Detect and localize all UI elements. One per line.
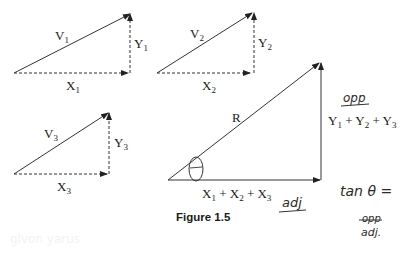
- vector-addition-diagram: V1 X1 Y1 V2 X2 Y2 V3 X3 Y3 R X1 + X2 + X…: [0, 0, 408, 259]
- adj-annotation: adj: [282, 195, 302, 210]
- opp-annotation: opp: [343, 91, 366, 105]
- fraction-numerator: opp: [362, 213, 381, 224]
- x2-label: X2: [202, 78, 216, 95]
- vector-triangle-1: V1 X1 Y1: [14, 14, 148, 95]
- v1-arrow: [14, 14, 130, 73]
- v3-label: V3: [44, 126, 58, 143]
- y-sum-label: Y1 + Y2 + Y3: [328, 113, 397, 130]
- x1-label: X1: [66, 78, 80, 95]
- v2-arrow: [157, 13, 252, 73]
- faint-bleed-text: glvon yarus: [10, 232, 80, 246]
- figure-caption: Figure 1.5: [176, 211, 231, 223]
- theta-angle-mark: [189, 157, 203, 181]
- vector-triangle-2: V2 X2 Y2: [157, 13, 272, 95]
- resultant-label: R: [232, 110, 241, 125]
- y3-label: Y3: [114, 135, 128, 152]
- tan-theta-equation: tan θ =: [340, 183, 392, 199]
- v3-arrow: [14, 113, 108, 174]
- y1-label: Y1: [134, 36, 148, 53]
- v2-label: V2: [190, 26, 204, 43]
- x3-label: X3: [57, 179, 71, 196]
- vector-triangle-3: V3 X3 Y3: [14, 113, 128, 196]
- x-sum-label: X1 + X2 + X3: [202, 186, 272, 203]
- fraction-denominator: adj.: [361, 226, 381, 239]
- v1-label: V1: [55, 28, 69, 45]
- y2-label: Y2: [258, 35, 272, 52]
